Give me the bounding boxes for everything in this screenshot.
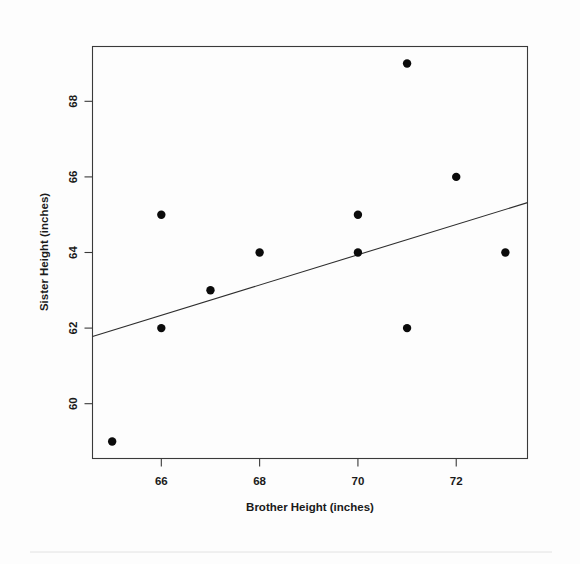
data-point (452, 173, 460, 181)
x-axis-tick-labels: 66687072 (155, 475, 463, 487)
x-tick-label-66: 66 (155, 475, 168, 487)
data-point (403, 324, 411, 332)
y-tick-label-64: 64 (67, 246, 79, 259)
y-axis-ticks (85, 101, 93, 403)
regression-trend-line (93, 203, 528, 337)
data-point (354, 211, 362, 219)
y-axis-title: Sister Height (inches) (38, 193, 50, 311)
x-axis-ticks (161, 459, 456, 467)
y-tick-label-68: 68 (67, 94, 79, 107)
data-point (157, 324, 165, 332)
data-point (354, 248, 362, 256)
data-point (206, 286, 214, 294)
y-tick-label-66: 66 (67, 171, 79, 184)
trend-line (93, 203, 528, 337)
scatter-plot-figure: 66687072 6062646668 Brother Height (inch… (0, 0, 580, 564)
plot-canvas: 66687072 6062646668 Brother Height (inch… (0, 0, 580, 564)
data-point (157, 211, 165, 219)
plot-frame (93, 47, 528, 459)
data-point (501, 248, 509, 256)
y-tick-label-60: 60 (67, 397, 79, 410)
x-tick-label-68: 68 (253, 475, 266, 487)
x-tick-label-72: 72 (450, 475, 463, 487)
x-axis-title: Brother Height (inches) (246, 501, 374, 513)
data-point (255, 248, 263, 256)
y-axis-tick-labels: 6062646668 (67, 94, 79, 410)
x-tick-label-70: 70 (352, 475, 365, 487)
data-point (403, 59, 411, 67)
data-point (108, 437, 116, 445)
data-points-layer (108, 59, 510, 445)
y-tick-label-62: 62 (67, 322, 79, 335)
